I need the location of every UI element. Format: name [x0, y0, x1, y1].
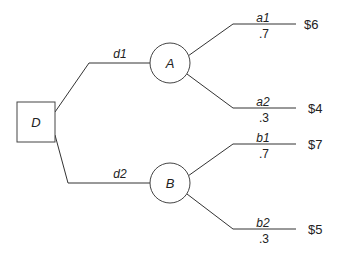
decision-label-d1: d1 [113, 47, 126, 61]
outcome-branch-b2 [187, 194, 296, 229]
chance-node-a-label: A [165, 56, 175, 71]
decision-branch-d2 [55, 135, 150, 183]
outcome-label-b1: b1 [256, 131, 269, 145]
outcome-branch-b1 [188, 144, 296, 176]
probability-b1: .7 [259, 147, 269, 161]
chance-node-b-label: B [166, 176, 175, 191]
probability-a2: .3 [259, 111, 269, 125]
decision-tree-diagram: D A B d1 d2 a1 a2 b1 b2 .7 .3 .7 .3 $6 $… [0, 0, 340, 261]
outcome-branch-a2 [187, 74, 296, 108]
payoff-b2: $5 [308, 222, 322, 237]
probability-b2: .3 [259, 232, 269, 246]
outcome-label-b2: b2 [256, 216, 270, 230]
decision-node-label: D [31, 115, 40, 130]
decision-branch-d1 [55, 63, 150, 112]
outcome-label-a1: a1 [256, 11, 269, 25]
decision-label-d2: d2 [113, 167, 127, 181]
payoff-b1: $7 [308, 137, 322, 152]
outcome-branch-a1 [188, 24, 296, 56]
payoff-a2: $4 [308, 101, 322, 116]
outcome-label-a2: a2 [256, 95, 270, 109]
probability-a1: .7 [259, 27, 269, 41]
payoff-a1: $6 [304, 17, 318, 32]
